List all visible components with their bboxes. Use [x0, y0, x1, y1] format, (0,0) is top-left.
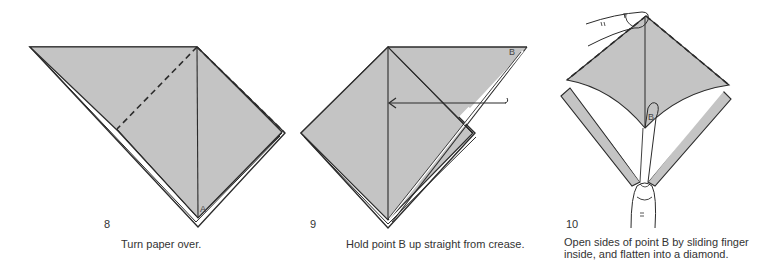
- point-a-label: A: [200, 204, 206, 214]
- point-b-label: B: [509, 47, 515, 57]
- step-8-figure: A: [30, 47, 285, 227]
- caption-step-9: Hold point B up straight from crease.: [346, 238, 525, 250]
- step-10-figure: B: [561, 12, 731, 228]
- step-number-10: 10: [566, 218, 578, 230]
- step-9-figure: B: [301, 47, 527, 228]
- point-b-label-10: B: [648, 112, 654, 122]
- step-number-9: 9: [310, 218, 316, 230]
- caption-step-10-line-1: Open sides of point B by sliding finger: [564, 236, 749, 248]
- caption-step-10-line-2: inside, and flatten into a diamond.: [564, 248, 749, 260]
- origami-diagram: A B: [0, 0, 775, 263]
- caption-step-8: Turn paper over.: [121, 238, 201, 250]
- step-number-8: 8: [104, 218, 110, 230]
- caption-step-10: Open sides of point B by sliding finger …: [564, 236, 749, 260]
